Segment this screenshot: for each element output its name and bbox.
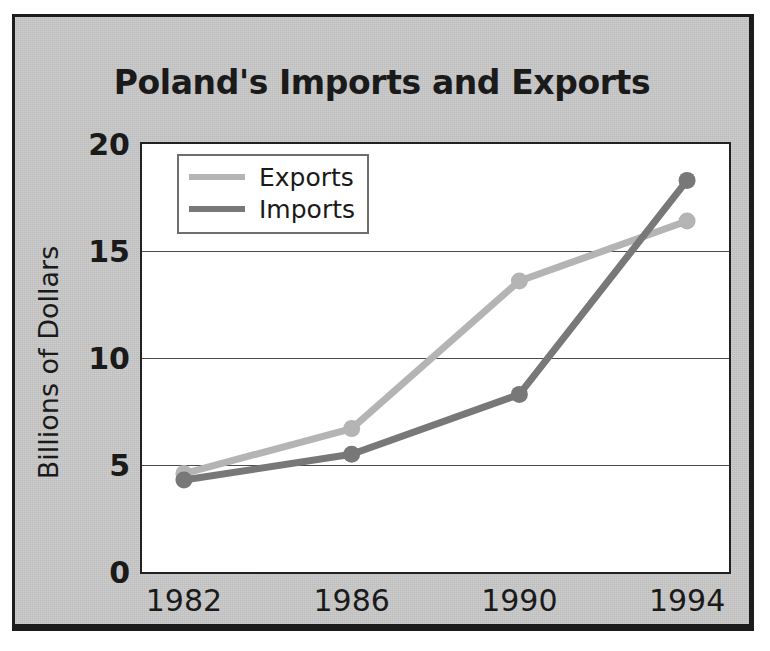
chart-title: Poland's Imports and Exports: [15, 63, 749, 102]
legend-swatch-exports: [189, 174, 245, 180]
marker-imports-1994: [679, 172, 696, 189]
legend-label-imports: Imports: [259, 197, 355, 222]
legend: Exports Imports: [177, 154, 369, 234]
marker-exports-1986: [343, 420, 360, 437]
marker-imports-1990: [511, 386, 528, 403]
marker-imports-1986: [343, 446, 360, 463]
legend-label-exports: Exports: [259, 165, 354, 190]
x-tick-1986: 1986: [313, 583, 389, 618]
legend-item-exports: Exports: [189, 162, 354, 192]
x-tick-1982: 1982: [146, 583, 222, 618]
y-tick-15: 15: [88, 234, 130, 269]
x-tick-1990: 1990: [481, 583, 557, 618]
y-tick-10: 10: [88, 341, 130, 376]
y-tick-0: 0: [109, 555, 130, 590]
y-axis-title: Billions of Dollars: [33, 228, 64, 498]
marker-imports-1982: [175, 471, 192, 488]
plot-area: 05101520 1982198619901994 Exports Import…: [140, 142, 731, 574]
series-exports: [175, 213, 695, 483]
y-tick-5: 5: [109, 448, 130, 483]
legend-swatch-imports: [189, 206, 245, 212]
line-exports: [184, 221, 687, 474]
y-tick-20: 20: [88, 127, 130, 162]
legend-item-imports: Imports: [189, 194, 355, 224]
marker-exports-1990: [511, 272, 528, 289]
x-tick-1994: 1994: [649, 583, 725, 618]
marker-exports-1994: [679, 213, 696, 230]
figure-frame: Poland's Imports and Exports Billions of…: [12, 14, 754, 631]
